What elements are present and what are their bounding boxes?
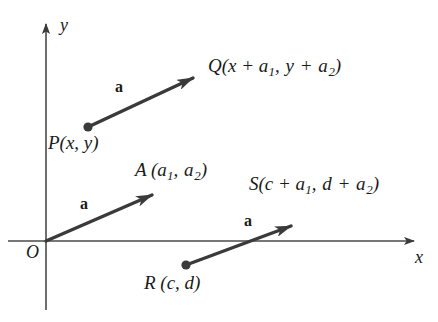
point-a-text-1: A (a	[135, 159, 167, 180]
vector-oa-label: a	[80, 196, 88, 212]
point-q-text-3: )	[335, 55, 341, 76]
point-a-text-2: , a	[173, 159, 194, 180]
point-s-text-3: )	[373, 173, 379, 194]
diagram-canvas	[0, 0, 438, 322]
vector-pq-label: a	[115, 79, 123, 95]
point-s-text-2: , d + a	[312, 173, 366, 194]
point-q-text-2: , y + a	[275, 55, 328, 76]
vector-pq-shaft	[88, 78, 193, 127]
vector-rs-tail-dot	[181, 260, 190, 269]
point-r-label: R (c, d)	[144, 273, 200, 292]
vector-rs-shaft	[186, 226, 291, 265]
point-q-label: Q(x + a1, y + a2)	[208, 56, 341, 79]
point-s-label: S(c + a1, d + a2)	[249, 174, 379, 197]
y-axis-label: y	[60, 16, 68, 34]
vector-diagram: y x O Q(x + a1, y + a2) P(x, y) A (a1, a…	[0, 0, 438, 322]
x-axis-label: x	[415, 248, 423, 266]
point-p-label: P(x, y)	[48, 133, 99, 152]
vector-pq-tail-dot	[83, 122, 92, 131]
vector-oa-shaft	[46, 195, 152, 241]
point-a-label: A (a1, a2)	[135, 160, 207, 183]
origin-label: O	[26, 243, 39, 261]
point-q-text-1: Q(x + a	[208, 55, 268, 76]
point-s-text-1: S(c + a	[249, 173, 305, 194]
vector-rs-label: a	[244, 213, 252, 229]
point-a-text-3: )	[201, 159, 207, 180]
